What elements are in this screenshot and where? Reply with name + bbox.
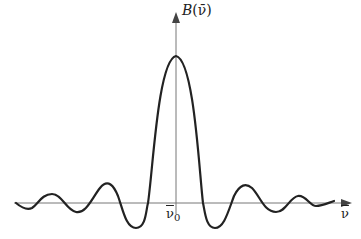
x-center-label: ν0 xyxy=(166,207,180,223)
x-center-subscript: 0 xyxy=(174,212,180,223)
x-center-symbol: ν xyxy=(166,206,174,221)
line-shape-diagram xyxy=(0,0,361,239)
x-axis-label: ν xyxy=(341,207,349,220)
y-label-func: B xyxy=(182,2,192,18)
line-shape-curve xyxy=(16,56,334,228)
y-axis-label: B(ν̄) xyxy=(182,3,212,17)
y-axis-arrow-icon xyxy=(172,12,180,23)
y-label-arg: (ν̄) xyxy=(192,2,211,18)
